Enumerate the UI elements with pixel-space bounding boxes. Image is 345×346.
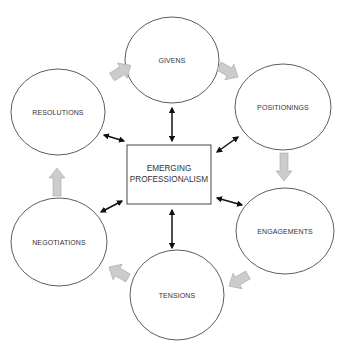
node-negotiations: NEGOTIATIONS: [11, 198, 107, 286]
cycle-arrow-engagements-to-tensions: [224, 267, 252, 294]
link-arrow-center-engagements: [217, 198, 242, 205]
node-label-givens: GIVENS: [158, 57, 185, 64]
node-positionings: POSITIONINGS: [235, 64, 331, 150]
node-tensions: TENSIONS: [130, 250, 224, 340]
node-label-positionings: POSITIONINGS: [257, 104, 309, 111]
emerging-professionalism-diagram: EMERGING PROFESSIONALISM GIVENS POSITION…: [0, 0, 345, 346]
node-label-resolutions: RESOLUTIONS: [32, 109, 84, 116]
node-label-negotiations: NEGOTIATIONS: [32, 239, 86, 246]
center-label-line1: EMERGING: [147, 164, 192, 173]
node-givens: GIVENS: [125, 17, 219, 103]
node-label-tensions: TENSIONS: [159, 292, 196, 299]
cycle-arrow-positionings-to-engagements: [276, 153, 292, 181]
node-label-engagements: ENGAGEMENTS: [257, 228, 313, 235]
cycle-arrow-tensions-to-negotiations: [104, 259, 132, 286]
node-resolutions: RESOLUTIONS: [11, 69, 105, 155]
node-engagements: ENGAGEMENTS: [236, 188, 334, 274]
link-arrow-center-resolutions: [104, 135, 124, 141]
link-arrow-center-positionings: [217, 137, 238, 152]
cycle-arrow-negotiations-to-resolutions: [49, 168, 65, 196]
link-arrow-center-negotiations: [101, 201, 122, 212]
center-box: EMERGING PROFESSIONALISM: [127, 145, 211, 204]
center-label-line2: PROFESSIONALISM: [130, 175, 208, 184]
